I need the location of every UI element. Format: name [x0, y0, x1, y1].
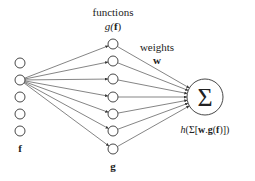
weights-symbol: w — [153, 54, 161, 66]
weight-edge-arrow — [118, 103, 188, 129]
sigma-symbol: Σ — [197, 83, 212, 112]
edge-arrow — [24, 83, 109, 146]
weight-edge-arrow — [117, 106, 189, 147]
edge-arrow — [25, 82, 109, 113]
function-node — [108, 56, 118, 66]
input-node — [15, 92, 25, 102]
input-node — [15, 109, 25, 119]
input-node — [15, 126, 25, 136]
function-node — [108, 74, 118, 84]
function-node — [108, 144, 118, 154]
network-diagram: Σ functions g(f) weights w f g h(Σ[w.g(f… — [0, 0, 255, 181]
output-node: Σ — [187, 79, 223, 115]
edge-arrow — [25, 46, 109, 78]
edge-arrow — [25, 81, 108, 96]
functions-title: functions — [93, 6, 134, 18]
functions-subtitle: g(f) — [105, 20, 122, 33]
weight-edge-arrow — [118, 80, 187, 94]
weight-edge-arrow — [118, 100, 187, 113]
function-node — [108, 109, 118, 119]
input-to-function-edges — [24, 46, 109, 146]
edge-arrow — [25, 79, 108, 80]
function-node — [108, 92, 118, 102]
output-formula: h(Σ[w.g(f)]) — [181, 124, 230, 136]
edge-arrow — [24, 82, 108, 128]
function-layer — [108, 39, 118, 154]
input-node — [15, 58, 25, 68]
edge-arrow — [25, 62, 108, 79]
weights-title: weights — [140, 41, 174, 53]
input-node — [15, 75, 25, 85]
function-layer-label: g — [110, 160, 116, 172]
function-node — [108, 39, 118, 49]
input-layer — [15, 58, 25, 136]
input-layer-label: f — [18, 142, 22, 154]
function-node — [108, 126, 118, 136]
